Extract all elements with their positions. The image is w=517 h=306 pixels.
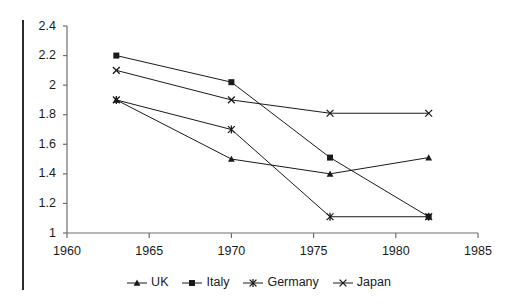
legend-marker-triangle-icon — [126, 277, 148, 289]
data-point-marker-star — [228, 126, 235, 134]
data-point-marker-triangle — [228, 156, 235, 162]
legend-label: Japan — [357, 276, 391, 289]
line-chart-plot — [0, 0, 517, 306]
x-axis-tick-label: 1980 — [373, 245, 419, 258]
legend-entry-italy[interactable]: Italy — [181, 276, 229, 289]
chart-legend: UKItalyGermanyJapan — [0, 276, 517, 289]
y-axis-tick-label: 1.4 — [22, 167, 56, 180]
legend-label: UK — [151, 276, 168, 289]
x-axis-tick-label: 1985 — [455, 245, 501, 258]
y-axis-tick-label: 2.2 — [22, 49, 56, 62]
x-axis-tick-label: 1975 — [291, 245, 337, 258]
series-line — [116, 100, 428, 174]
series-italy — [113, 53, 431, 220]
legend-marker-x-icon — [332, 277, 354, 289]
x-axis-tick-label: 1965 — [126, 245, 172, 258]
data-point-marker-square — [327, 155, 333, 161]
y-axis-tick-label: 2 — [22, 79, 56, 92]
data-series-layer — [113, 53, 432, 221]
y-axis-tick-label: 1 — [22, 227, 56, 240]
series-japan — [113, 67, 432, 117]
y-axis-tick-label: 2.4 — [22, 20, 56, 33]
chart-figure: 11.21.41.61.822.22.4 1960196519701975198… — [0, 0, 517, 306]
data-point-marker-triangle — [425, 154, 432, 160]
series-line — [116, 70, 428, 113]
series-line — [116, 56, 428, 217]
y-axis-tick-label: 1.6 — [22, 138, 56, 151]
series-germany — [113, 96, 432, 221]
legend-label: Germany — [267, 276, 318, 289]
axis-lines — [67, 26, 478, 233]
x-axis-tick-label: 1960 — [44, 245, 90, 258]
series-line — [116, 100, 428, 217]
legend-marker-square-icon — [181, 277, 203, 289]
data-point-marker-square — [228, 79, 234, 85]
data-point-marker-square — [189, 280, 195, 286]
y-axis-tick-label: 1.2 — [22, 197, 56, 210]
legend-entry-uk[interactable]: UK — [126, 276, 168, 289]
legend-marker-star-icon — [242, 277, 264, 289]
legend-entry-germany[interactable]: Germany — [242, 276, 318, 289]
x-axis-ticks — [67, 233, 478, 238]
y-axis-tick-label: 1.8 — [22, 108, 56, 121]
x-axis-tick-label: 1970 — [208, 245, 254, 258]
legend-label: Italy — [206, 276, 229, 289]
data-point-marker-square — [113, 53, 119, 59]
series-uk — [113, 97, 432, 177]
data-point-marker-star — [113, 96, 120, 104]
legend-entry-japan[interactable]: Japan — [332, 276, 391, 289]
data-point-marker-x — [113, 67, 120, 74]
